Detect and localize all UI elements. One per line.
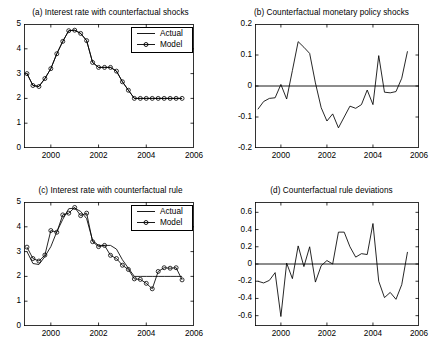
panel-c-legend-label-actual: Actual	[157, 206, 183, 217]
panel-a-legend-label-actual: Actual	[157, 28, 183, 39]
y-tick-label: -0.1	[219, 112, 252, 121]
x-tick-label: 2002	[84, 151, 114, 160]
panel-c-title: (c) Interest rate with counterfactual ru…	[0, 186, 221, 196]
x-tick-label: 2002	[312, 329, 342, 338]
y-tick-label: 2	[0, 271, 21, 280]
x-tick-label: 2000	[36, 151, 66, 160]
panel-c-legend-row-model: Model	[132, 217, 192, 228]
x-tick-label: 2000	[266, 329, 296, 338]
panel-c-legend-row-actual: Actual	[132, 206, 192, 217]
y-tick-label: 1	[0, 296, 21, 305]
panel-c-legend: Actual Model	[131, 205, 193, 231]
y-tick-label: 0	[219, 81, 252, 90]
x-tick-label: 2006	[404, 329, 434, 338]
y-tick-label: 4	[0, 222, 21, 231]
legend-line-marker-symbol	[135, 217, 157, 228]
legend-line-symbol	[135, 206, 157, 217]
legend-line-symbol	[135, 28, 157, 39]
panel-d: (d) Counterfactual rule deviations -0.6-…	[221, 184, 442, 357]
panel-a-legend-row-model: Model	[132, 39, 192, 50]
y-tick-label: 0.2	[219, 242, 252, 251]
x-tick-label: 2004	[358, 151, 388, 160]
y-tick-label: 0.4	[219, 225, 252, 234]
x-tick-label: 2002	[312, 151, 342, 160]
y-tick-label: -0.2	[219, 276, 252, 285]
y-tick-label: -0.4	[219, 293, 252, 302]
x-tick-label: 2006	[404, 151, 434, 160]
panel-a-title: (a) Interest rate with counterfactual sh…	[0, 8, 221, 18]
y-tick-label: 0.6	[219, 207, 252, 216]
y-tick-label: 0.1	[219, 50, 252, 59]
y-tick-label: -0.2	[219, 143, 252, 152]
x-tick-label: 2000	[36, 329, 66, 338]
y-tick-label: 0	[0, 321, 21, 330]
panel-c: (c) Interest rate with counterfactual ru…	[0, 184, 221, 357]
series-line-shock	[258, 42, 408, 128]
y-tick-label: 2	[0, 93, 21, 102]
y-tick-label: 1	[0, 118, 21, 127]
panel-c-legend-label-model: Model	[157, 217, 182, 228]
panel-b-svg	[255, 24, 419, 148]
panel-b-plot-area	[255, 24, 419, 148]
y-tick-label: 5	[0, 19, 21, 28]
x-tick-label: 2004	[358, 329, 388, 338]
y-tick-label: 0.2	[219, 19, 252, 28]
panel-d-plot-area	[255, 202, 419, 326]
y-tick-label: -0.6	[219, 311, 252, 320]
x-tick-label: 2006	[179, 151, 209, 160]
y-tick-label: 0	[219, 259, 252, 268]
y-tick-label: 3	[0, 69, 21, 78]
y-tick-label: 4	[0, 44, 21, 53]
panel-a-legend: Actual Model	[131, 27, 193, 53]
series-marker	[25, 245, 29, 249]
panel-a-legend-row-actual: Actual	[132, 28, 192, 39]
panel-d-svg	[255, 202, 419, 326]
figure-canvas: (a) Interest rate with counterfactual sh…	[0, 0, 442, 357]
x-tick-label: 2004	[131, 151, 161, 160]
panel-d-title: (d) Counterfactual rule deviations	[221, 186, 442, 196]
x-tick-label: 2002	[84, 329, 114, 338]
legend-line-marker-symbol	[135, 39, 157, 50]
panel-b-title: (b) Counterfactual monetary policy shock…	[221, 8, 442, 18]
y-tick-label: 3	[0, 247, 21, 256]
series-line-deviation	[258, 224, 408, 317]
x-tick-label: 2000	[266, 151, 296, 160]
panel-b: (b) Counterfactual monetary policy shock…	[221, 6, 442, 178]
x-tick-label: 2006	[179, 329, 209, 338]
y-tick-label: 0	[0, 143, 21, 152]
panel-a-legend-label-model: Model	[157, 39, 182, 50]
y-tick-label: 5	[0, 197, 21, 206]
panel-a: (a) Interest rate with counterfactual sh…	[0, 6, 221, 178]
x-tick-label: 2004	[131, 329, 161, 338]
